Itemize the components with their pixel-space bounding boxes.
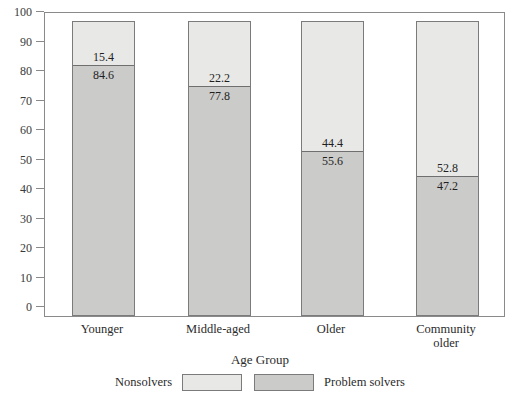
segment-nonsolvers[interactable]: 52.8	[417, 22, 478, 178]
y-axis-tick-label: 80	[20, 64, 32, 78]
stacked-bar[interactable]: 52.8 47.2	[416, 21, 479, 316]
legend-swatch-nonsolvers	[182, 374, 242, 391]
segment-label-problem-solvers: 55.6	[302, 154, 363, 169]
stacked-bar[interactable]: 22.2 77.8	[188, 21, 251, 316]
stacked-bar[interactable]: 44.4 55.6	[301, 21, 364, 316]
y-axis-tick-mark	[36, 277, 44, 278]
y-axis-tick-mark	[36, 11, 44, 12]
legend-item-nonsolvers[interactable]: Nonsolvers	[115, 374, 242, 391]
segment-problem-solvers[interactable]: 55.6	[302, 151, 363, 315]
y-axis-tick-label: 90	[20, 35, 32, 49]
segment-label-nonsolvers: 44.4	[302, 136, 363, 151]
y-axis: 100 90 80 70 60 50 40 30	[0, 0, 44, 317]
stacked-bar[interactable]: 15.4 84.6	[72, 21, 135, 316]
y-axis-tick-label: 50	[20, 153, 32, 167]
y-axis-tick-mark	[36, 247, 44, 248]
y-axis-tick-label: 10	[20, 271, 32, 285]
plot-area: 15.4 84.6 22.2 77.8 44.4	[44, 12, 505, 317]
segment-label-problem-solvers: 77.8	[189, 89, 250, 104]
chart-legend: Nonsolvers Problem solvers	[0, 374, 520, 391]
x-axis-category-label-line1: Community	[386, 322, 506, 336]
segment-label-nonsolvers: 15.4	[73, 50, 134, 65]
y-axis-tick-label: 0	[26, 300, 32, 314]
y-axis-tick-label: 100	[14, 5, 32, 19]
legend-swatch-problem-solvers	[254, 374, 314, 391]
x-axis-category-middle-aged: Middle-aged	[158, 322, 278, 336]
x-axis-category-label-line1: Middle-aged	[158, 322, 278, 336]
x-axis-category-older: Older	[271, 322, 391, 336]
y-axis-tick-mark	[36, 188, 44, 189]
y-axis-tick-mark	[36, 306, 44, 307]
x-axis-category-label-line1: Younger	[42, 322, 162, 336]
legend-label-nonsolvers: Nonsolvers	[115, 375, 172, 390]
y-axis-tick-mark	[36, 41, 44, 42]
segment-label-problem-solvers: 47.2	[417, 179, 478, 194]
y-axis-tick-mark	[36, 70, 44, 71]
y-axis-tick-label: 20	[20, 241, 32, 255]
x-axis-title: Age Group	[0, 352, 520, 368]
x-axis-category-community-older: Community older	[386, 322, 506, 350]
segment-nonsolvers[interactable]: 22.2	[189, 22, 250, 88]
segment-label-nonsolvers: 52.8	[417, 161, 478, 176]
y-axis-tick-label: 40	[20, 182, 32, 196]
chart-figure: 100 90 80 70 60 50 40 30	[0, 0, 520, 415]
y-axis-tick-mark	[36, 218, 44, 219]
y-axis-tick-label: 60	[20, 123, 32, 137]
y-axis-tick-mark	[36, 100, 44, 101]
x-axis-category-label-line2: older	[386, 336, 506, 350]
x-axis-category-younger: Younger	[42, 322, 162, 336]
legend-item-problem-solvers[interactable]: Problem solvers	[254, 374, 405, 391]
y-axis-tick-label: 30	[20, 212, 32, 226]
segment-nonsolvers[interactable]: 44.4	[302, 22, 363, 153]
x-axis-category-label-line1: Older	[271, 322, 391, 336]
legend-label-problem-solvers: Problem solvers	[324, 375, 405, 390]
segment-label-nonsolvers: 22.2	[189, 71, 250, 86]
segment-nonsolvers[interactable]: 15.4	[73, 22, 134, 67]
y-axis-tick-mark	[36, 159, 44, 160]
segment-problem-solvers[interactable]: 77.8	[189, 86, 250, 316]
segment-label-problem-solvers: 84.6	[73, 68, 134, 83]
y-axis-tick-mark	[36, 129, 44, 130]
segment-problem-solvers[interactable]: 47.2	[417, 176, 478, 315]
y-axis-tick-label: 70	[20, 94, 32, 108]
segment-problem-solvers[interactable]: 84.6	[73, 65, 134, 315]
